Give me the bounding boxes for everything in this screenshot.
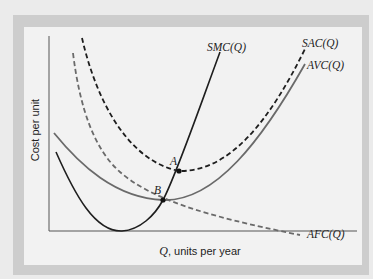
- x-axis-label: Q, units per year: [159, 244, 240, 259]
- sac-label: SAC(Q): [302, 37, 338, 49]
- point-b-marker: [160, 197, 165, 202]
- point-a-marker: [176, 168, 181, 173]
- afc-label: AFC(Q): [307, 228, 345, 240]
- point-b-label: B: [154, 184, 161, 196]
- y-axis-label: Cost per unit: [29, 99, 41, 161]
- point-a-label: A: [170, 155, 177, 167]
- sac-curve: [82, 38, 305, 171]
- smc-label: SMC(Q): [207, 41, 246, 53]
- x-axis-unit: , units per year: [168, 245, 241, 257]
- x-axis-variable: Q: [159, 244, 168, 258]
- avc-label: AVC(Q): [307, 59, 344, 71]
- smc-curve: [56, 52, 220, 231]
